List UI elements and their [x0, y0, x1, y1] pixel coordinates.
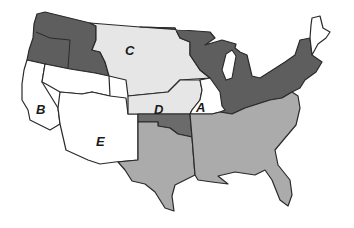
label-e: E	[96, 135, 105, 148]
region-e	[58, 92, 138, 164]
label-c: C	[125, 44, 134, 57]
label-d: D	[154, 103, 163, 116]
label-a: A	[196, 101, 205, 114]
region-maine	[310, 16, 330, 55]
map-canvas	[0, 0, 354, 228]
us-map: A B C D E	[0, 0, 354, 228]
label-b: B	[36, 103, 45, 116]
